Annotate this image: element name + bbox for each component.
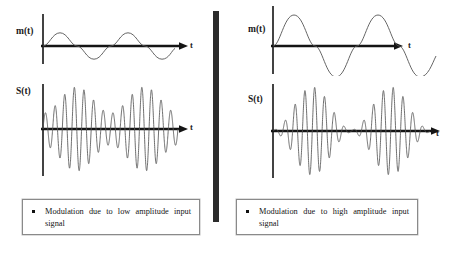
left-modulated-y-label: S(t) bbox=[16, 86, 31, 96]
figure-canvas: m(t) t S(t) t Modulation due to low ampl… bbox=[0, 0, 457, 257]
right-callout-text: Modulation due to high amplitude input s… bbox=[255, 206, 409, 230]
panel-low-amplitude: m(t) t S(t) t Modulation due to low ampl… bbox=[0, 0, 214, 257]
left-callout-text: Modulation due to low amplitude input si… bbox=[41, 206, 191, 230]
right-modulated-y-label: S(t) bbox=[248, 94, 263, 104]
right-message-plot bbox=[268, 4, 448, 76]
right-modulated-plot-svg bbox=[268, 82, 457, 180]
x-axis-arrowhead bbox=[179, 42, 188, 50]
square-bullet-icon bbox=[246, 206, 255, 213]
right-message-y-label: m(t) bbox=[248, 24, 265, 34]
left-message-x-label: t bbox=[190, 40, 193, 50]
left-modulated-plot bbox=[38, 82, 203, 178]
right-modulated-plot bbox=[268, 82, 457, 180]
left-modulated-plot-svg bbox=[38, 82, 203, 178]
square-bullet-icon bbox=[32, 206, 41, 213]
panel-high-amplitude: m(t) t S(t) t Modulation due to high amp… bbox=[228, 0, 457, 257]
right-message-plot-svg bbox=[268, 4, 448, 76]
x-axis-arrowhead bbox=[179, 125, 188, 133]
left-message-y-label: m(t) bbox=[16, 26, 33, 36]
left-modulated-x-label: t bbox=[190, 122, 193, 132]
left-message-plot-svg bbox=[38, 12, 198, 68]
left-message-plot bbox=[38, 12, 198, 68]
right-message-x-label: t bbox=[408, 40, 411, 50]
left-callout-box: Modulation due to low amplitude input si… bbox=[22, 199, 200, 235]
panel-divider bbox=[213, 11, 219, 222]
right-callout-box: Modulation due to high amplitude input s… bbox=[236, 199, 418, 235]
right-modulated-x-label: t bbox=[436, 128, 439, 138]
